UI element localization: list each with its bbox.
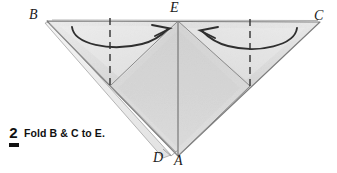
- vertex-label-d: D: [153, 150, 163, 166]
- vertex-label-c: C: [314, 8, 323, 24]
- step-number: 2: [9, 126, 17, 140]
- vertex-label-b: B: [29, 7, 38, 23]
- step-caption: 2 Fold B & C to E.: [8, 126, 105, 147]
- fold-diagram-figure: [0, 0, 337, 173]
- step-instruction-text: Fold B & C to E.: [24, 126, 105, 139]
- vertex-label-e: E: [170, 0, 179, 16]
- step-number-block: 2: [8, 126, 19, 147]
- vertex-label-a: A: [174, 153, 183, 169]
- step-number-underline: [9, 143, 19, 147]
